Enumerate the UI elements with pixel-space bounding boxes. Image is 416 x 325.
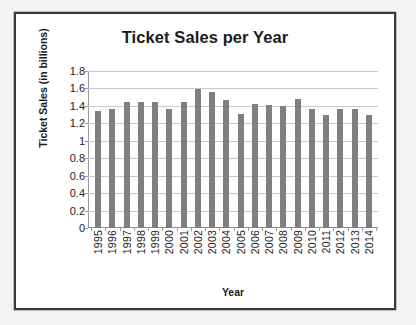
x-axis-tick-labels: 1995199619971998199920002001200220032004… — [88, 230, 378, 282]
x-tick-slot: 2003 — [205, 230, 219, 282]
y-axis-tick-mark — [85, 211, 88, 212]
bar-slot — [148, 71, 162, 228]
x-axis-tick-mark — [91, 228, 92, 231]
y-axis-tick-label: 1.6 — [70, 82, 85, 94]
y-axis-tick-mark — [85, 123, 88, 124]
x-axis-tick-mark — [305, 228, 306, 231]
x-tick-slot: 2014 — [362, 230, 376, 282]
x-tick-slot: 2011 — [319, 230, 333, 282]
x-axis-tick-label: 2003 — [206, 230, 218, 254]
bar-slot — [276, 71, 290, 228]
bar-1998 — [138, 102, 144, 228]
x-axis-tick-mark — [120, 228, 121, 231]
x-axis-tick-label: 2008 — [277, 230, 289, 254]
plot-area — [88, 71, 378, 228]
bar-1995 — [95, 111, 101, 228]
bar-slot — [319, 71, 333, 228]
bar-2011 — [323, 115, 329, 228]
y-axis-tick-label: 0.8 — [70, 152, 85, 164]
y-axis-tick-label: 1.2 — [70, 117, 85, 129]
x-axis-tick-mark — [177, 228, 178, 231]
bar-slot — [120, 71, 134, 228]
bar-2010 — [309, 109, 315, 228]
x-axis-tick-mark — [162, 228, 163, 231]
x-axis-tick-mark — [319, 228, 320, 231]
x-axis-tick-label: 2013 — [349, 230, 361, 254]
x-tick-slot: 1996 — [105, 230, 119, 282]
x-axis-tick-mark — [376, 228, 377, 231]
chart-page: Ticket Sales per Year Ticket Sales (in b… — [0, 0, 416, 325]
bar-slot — [333, 71, 347, 228]
x-axis-tick-mark — [276, 228, 277, 231]
x-axis-tick-mark — [134, 228, 135, 231]
bar-1999 — [152, 102, 158, 228]
x-tick-slot: 2004 — [219, 230, 233, 282]
y-axis-tick-labels: 1.81.61.41.210.80.60.40.20 — [56, 71, 85, 228]
bar-slot — [219, 71, 233, 228]
x-axis-tick-mark — [219, 228, 220, 231]
x-axis-tick-label: 2005 — [235, 230, 247, 254]
x-tick-slot: 2009 — [291, 230, 305, 282]
bar-2012 — [337, 109, 343, 228]
y-axis-tick-label: 1.8 — [70, 65, 85, 77]
x-tick-slot: 2010 — [305, 230, 319, 282]
x-axis-tick-mark — [348, 228, 349, 231]
x-axis-tick-label: 1996 — [106, 230, 118, 254]
y-axis-tick-mark — [85, 158, 88, 159]
x-axis-tick-label: 2001 — [178, 230, 190, 254]
x-axis-tick-mark — [191, 228, 192, 231]
x-axis-tick-mark — [105, 228, 106, 231]
x-tick-slot: 1999 — [148, 230, 162, 282]
bar-1997 — [124, 102, 130, 228]
bar-2001 — [181, 102, 187, 228]
x-tick-slot: 1995 — [91, 230, 105, 282]
x-tick-slot: 2005 — [234, 230, 248, 282]
x-axis-tick-mark — [205, 228, 206, 231]
x-axis-tick-label: 2000 — [163, 230, 175, 254]
bar-slot — [262, 71, 276, 228]
x-tick-slot: 2006 — [248, 230, 262, 282]
x-axis-tick-mark — [333, 228, 334, 231]
x-axis-tick-label: 2010 — [306, 230, 318, 254]
bar-slot — [191, 71, 205, 228]
bar-slot — [305, 71, 319, 228]
x-axis-tick-mark — [362, 228, 363, 231]
x-tick-slot: 2007 — [262, 230, 276, 282]
x-axis-tick-label: 2002 — [192, 230, 204, 254]
y-axis-tick-mark — [85, 88, 88, 89]
x-axis-tick-label: 2014 — [363, 230, 375, 254]
x-tick-slot: 1997 — [120, 230, 134, 282]
bar-slot — [134, 71, 148, 228]
bar-slot — [205, 71, 219, 228]
bar-series — [88, 71, 378, 228]
bar-2000 — [166, 109, 172, 228]
bar-slot — [234, 71, 248, 228]
y-axis-tick-mark — [85, 176, 88, 177]
bar-slot — [362, 71, 376, 228]
x-axis-tick-label: 1997 — [121, 230, 133, 254]
bar-2003 — [209, 92, 215, 228]
x-axis-title: Year — [88, 286, 378, 298]
y-axis-tick-label: 1.4 — [70, 100, 85, 112]
y-axis-tick-label: 0.4 — [70, 187, 85, 199]
bar-2005 — [238, 114, 244, 228]
chart-title: Ticket Sales per Year — [16, 28, 394, 47]
bar-1996 — [109, 109, 115, 228]
x-tick-slot: 2012 — [333, 230, 347, 282]
x-tick-slot: 2013 — [348, 230, 362, 282]
y-axis-tick-mark — [85, 141, 88, 142]
x-axis-tick-mark — [234, 228, 235, 231]
x-axis-tick-label: 2011 — [320, 230, 332, 253]
x-axis-tick-mark — [291, 228, 292, 231]
y-axis-tick-label: 0.2 — [70, 205, 85, 217]
bar-slot — [348, 71, 362, 228]
y-axis-tick-mark — [85, 193, 88, 194]
bar-slot — [105, 71, 119, 228]
x-tick-slot: 2002 — [191, 230, 205, 282]
x-axis-tick-label: 2007 — [263, 230, 275, 254]
bar-slot — [91, 71, 105, 228]
x-axis-tick-label: 1999 — [149, 230, 161, 254]
chart-frame: Ticket Sales per Year Ticket Sales (in b… — [14, 12, 396, 310]
x-axis-tick-label: 2012 — [334, 230, 346, 254]
y-axis-tick-mark — [85, 71, 88, 72]
